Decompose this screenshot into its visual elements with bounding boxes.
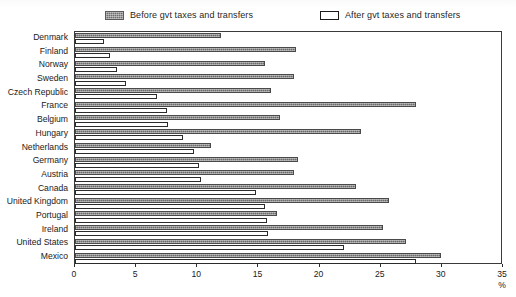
axis-tick [74,264,75,267]
bar-before-united-kingdom [75,198,389,203]
legend-swatch-after-icon [320,11,339,20]
axis-tick-label: 5 [133,269,138,279]
axis-unit-label: % [498,280,506,290]
bar-before-austria [75,170,294,175]
axis-tick [135,264,136,267]
category-label: Norway [39,59,68,69]
legend-item-before[interactable]: Before gvt taxes and transfers [105,10,253,20]
category-axis-labels: DenmarkFinlandNorwaySwedenCzech Republic… [0,31,71,264]
bar-before-netherlands [75,143,211,148]
scan-artifact [0,0,516,8]
bar-before-portugal [75,211,277,216]
bar-after-norway [75,67,117,72]
axis-tick [441,264,442,267]
category-label: Belgium [37,114,68,124]
category-label: Austria [41,169,68,179]
bar-before-canada [75,184,356,189]
bar-after-czech-republic [75,94,157,99]
bar-after-netherlands [75,149,194,154]
axis-tick-label: 30 [436,269,446,279]
bar-after-finland [75,53,110,58]
category-label: Netherlands [22,142,68,152]
bar-after-canada [75,190,256,195]
value-axis: % 05101520253035 [74,264,502,294]
chart-legend: Before gvt taxes and transfers After gvt… [0,10,516,28]
bar-before-mexico [75,253,441,258]
bar-before-germany [75,157,298,162]
bars-container [75,32,501,263]
bar-after-united-kingdom [75,204,265,209]
bar-before-hungary [75,129,361,134]
bar-before-france [75,102,416,107]
axis-tick-label: 0 [72,269,77,279]
bar-after-belgium [75,122,168,127]
axis-tick-label: 35 [497,269,507,279]
axis-tick-label: 20 [314,269,324,279]
plot-area [74,31,502,264]
category-label: Finland [40,46,68,56]
bar-after-germany [75,163,199,168]
category-label: Mexico [41,251,68,261]
axis-tick [257,264,258,267]
bar-after-ireland [75,231,268,236]
axis-tick-label: 15 [253,269,263,279]
legend-swatch-before-icon [105,11,124,20]
category-label: Portugal [36,210,68,220]
bar-before-czech-republic [75,88,271,93]
bar-before-belgium [75,115,280,120]
category-label: Denmark [33,32,68,42]
bar-after-mexico [75,259,416,264]
bar-after-united-states [75,245,344,250]
category-label: United States [16,237,68,247]
bar-after-austria [75,177,201,182]
axis-tick [319,264,320,267]
category-label: Czech Republic [8,87,68,97]
axis-tick [502,264,503,267]
legend-label-before: Before gvt taxes and transfers [130,10,253,20]
bar-after-sweden [75,81,126,86]
legend-item-after[interactable]: After gvt taxes and transfers [320,10,460,20]
bar-after-hungary [75,135,183,140]
category-label: Canada [38,183,68,193]
legend-label-after: After gvt taxes and transfers [345,10,460,20]
axis-tick-label: 25 [375,269,385,279]
category-label: France [41,100,68,110]
bar-before-united-states [75,239,406,244]
bar-before-ireland [75,225,383,230]
axis-tick-label: 10 [192,269,202,279]
bar-before-finland [75,47,296,52]
category-label: Germany [33,155,68,165]
bar-before-denmark [75,33,221,38]
axis-tick [196,264,197,267]
category-label: United Kingdom [7,196,68,206]
bar-after-denmark [75,39,104,44]
category-label: Ireland [42,224,68,234]
axis-tick [380,264,381,267]
category-label: Hungary [36,128,68,138]
bar-before-norway [75,61,265,66]
bar-before-sweden [75,74,294,79]
bar-after-portugal [75,218,267,223]
bar-after-france [75,108,167,113]
category-label: Sweden [37,73,68,83]
